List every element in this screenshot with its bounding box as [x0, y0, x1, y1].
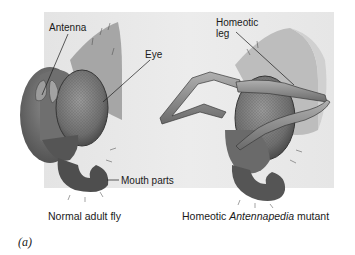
label-homeotic-leg-line1: Homeotic — [216, 17, 258, 28]
label-homeotic-leg: Homeotic leg — [216, 17, 258, 39]
label-homeotic-leg-line2: leg — [216, 28, 258, 39]
normal-fly-head — [20, 22, 122, 202]
label-mouth-parts: Mouth parts — [121, 175, 174, 186]
caption-prefix: Homeotic — [182, 210, 229, 222]
caption-gene-name: Antennapedia — [229, 210, 294, 222]
caption-suffix: mutant — [294, 210, 329, 222]
label-eye: Eye — [145, 49, 162, 60]
caption-antennapedia-mutant: Homeotic Antennapedia mutant — [182, 210, 329, 222]
label-antenna: Antenna — [49, 22, 86, 33]
panel-letter: (a) — [18, 235, 32, 250]
antennapedia-mutant-head — [160, 28, 330, 208]
caption-normal-fly: Normal adult fly — [48, 210, 121, 222]
